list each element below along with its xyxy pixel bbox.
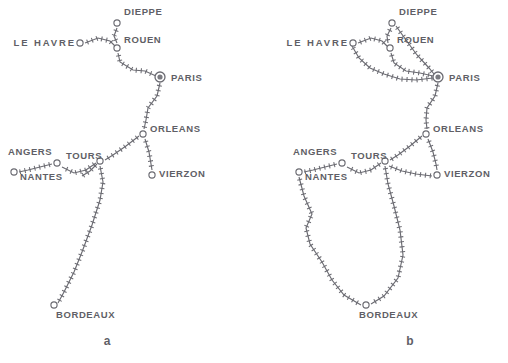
rail-tick-mark <box>396 276 401 277</box>
rail-tick-mark <box>97 202 102 204</box>
station-marker-circle <box>434 172 440 178</box>
rail-tick-mark <box>388 193 393 194</box>
city-node-paris[interactable]: PARIS <box>155 72 202 83</box>
rail-tick-mark <box>95 207 100 209</box>
rail-tick-mark <box>391 202 396 203</box>
figure-canvas: DIEPPEROUENLE HAVREPARISORLEANSVIERZONTO… <box>0 0 508 363</box>
city-node-bordeaux[interactable]: BORDEAUX <box>51 302 115 320</box>
city-label: ROUEN <box>124 34 161 45</box>
station-marker-circle <box>114 20 120 26</box>
rail-tick-mark <box>392 74 393 79</box>
rail-link <box>371 166 405 304</box>
city-node-angers[interactable]: ANGERS <box>8 146 60 166</box>
rail-tick-mark <box>106 38 107 43</box>
city-label: DIEPPE <box>124 6 162 17</box>
rail-tick-mark <box>145 112 150 113</box>
station-marker-circle <box>363 302 369 308</box>
rail-tick-mark <box>44 163 45 168</box>
rail-tick-mark <box>101 37 102 42</box>
rail-tick-mark <box>99 188 104 189</box>
rail-line <box>390 136 422 160</box>
rail-link <box>57 166 105 303</box>
rail-tick-mark <box>428 73 429 78</box>
rail-line <box>105 136 139 160</box>
rail-tick-mark <box>155 95 160 96</box>
city-node-orleans[interactable]: ORLEANS <box>423 123 484 137</box>
rail-tick-mark <box>398 266 403 267</box>
rail-link <box>390 136 422 161</box>
city-node-orleans[interactable]: ORLEANS <box>140 123 201 137</box>
city-node-rouen[interactable]: ROUEN <box>387 34 434 51</box>
rail-tick-mark <box>304 230 309 231</box>
rail-tick-mark <box>423 71 424 76</box>
rail-tick-mark <box>147 156 152 157</box>
station-marker-circle <box>339 160 345 166</box>
city-node-nantes[interactable]: NANTES <box>296 169 348 182</box>
rail-tick-mark <box>394 217 399 218</box>
rail-tick-mark <box>427 76 428 81</box>
rail-tick-mark <box>80 169 81 174</box>
rail-tick-mark <box>99 193 104 194</box>
city-label: ROUEN <box>397 34 434 45</box>
rail-tick-mark <box>100 183 105 184</box>
rail-link <box>389 165 432 179</box>
rail-tick-mark <box>396 76 397 81</box>
city-node-angers[interactable]: ANGERS <box>293 146 345 166</box>
city-node-tours[interactable]: TOURS <box>351 150 388 164</box>
station-marker-circle <box>11 169 17 175</box>
hub-marker-inner-dot <box>435 74 440 79</box>
rail-tick-mark <box>39 165 40 170</box>
rail-tick-mark <box>144 117 149 118</box>
rail-tick-mark <box>142 127 147 128</box>
rail-tick-mark <box>399 261 404 262</box>
city-label: ORLEANS <box>150 123 201 134</box>
city-node-le-havre[interactable]: LE HAVRE <box>13 37 83 48</box>
city-node-bordeaux[interactable]: BORDEAUX <box>359 302 418 320</box>
city-label: ORLEANS <box>433 123 484 134</box>
rail-line <box>118 53 156 76</box>
station-marker-circle <box>296 169 302 175</box>
rail-tick-mark <box>306 235 311 236</box>
rail-tick-mark <box>392 207 397 208</box>
city-node-vierzon[interactable]: VIERZON <box>434 168 491 179</box>
rail-tick-mark <box>397 271 402 272</box>
rail-tick-mark <box>387 188 392 189</box>
rail-tick-mark <box>420 172 421 177</box>
rail-tick-mark <box>99 173 104 174</box>
city-label: LE HAVRE <box>13 37 76 48</box>
rail-tick-mark <box>307 240 312 241</box>
station-marker-circle <box>387 45 393 51</box>
city-label: NANTES <box>20 171 63 182</box>
rail-tick-mark <box>383 168 388 169</box>
city-node-paris[interactable]: PARIS <box>433 72 480 83</box>
city-node-dieppe[interactable]: DIEPPE <box>389 6 438 26</box>
rail-tick-mark <box>374 37 375 42</box>
rail-tick-mark <box>145 146 150 147</box>
rail-tick-mark <box>329 163 330 168</box>
rail-tick-mark <box>433 95 438 96</box>
rail-tick-mark <box>434 165 439 166</box>
station-marker-circle <box>389 20 395 26</box>
city-node-dieppe[interactable]: DIEPPE <box>114 6 163 26</box>
rail-tick-mark <box>156 90 161 91</box>
rail-tick-mark <box>143 122 148 123</box>
rail-line <box>145 139 152 170</box>
rail-tick-mark <box>399 242 404 243</box>
city-node-vierzon[interactable]: VIERZON <box>149 168 206 179</box>
city-node-tours[interactable]: TOURS <box>66 150 103 164</box>
city-node-le-havre[interactable]: LE HAVRE <box>286 37 356 48</box>
rail-link <box>427 139 439 170</box>
rail-tick-mark <box>391 60 396 61</box>
rail-tick-mark <box>92 217 97 219</box>
rail-link <box>347 163 381 175</box>
rail-tick-mark <box>405 169 406 174</box>
city-label: ANGERS <box>8 146 52 157</box>
city-node-rouen[interactable]: ROUEN <box>114 34 161 51</box>
city-node-nantes[interactable]: NANTES <box>11 169 63 182</box>
rail-line <box>58 166 103 303</box>
city-label: VIERZON <box>444 168 490 179</box>
rail-tick-mark <box>433 160 438 161</box>
rail-tick-mark <box>98 198 103 199</box>
hub-marker-inner-dot <box>157 74 162 79</box>
rail-tick-mark <box>85 168 86 173</box>
